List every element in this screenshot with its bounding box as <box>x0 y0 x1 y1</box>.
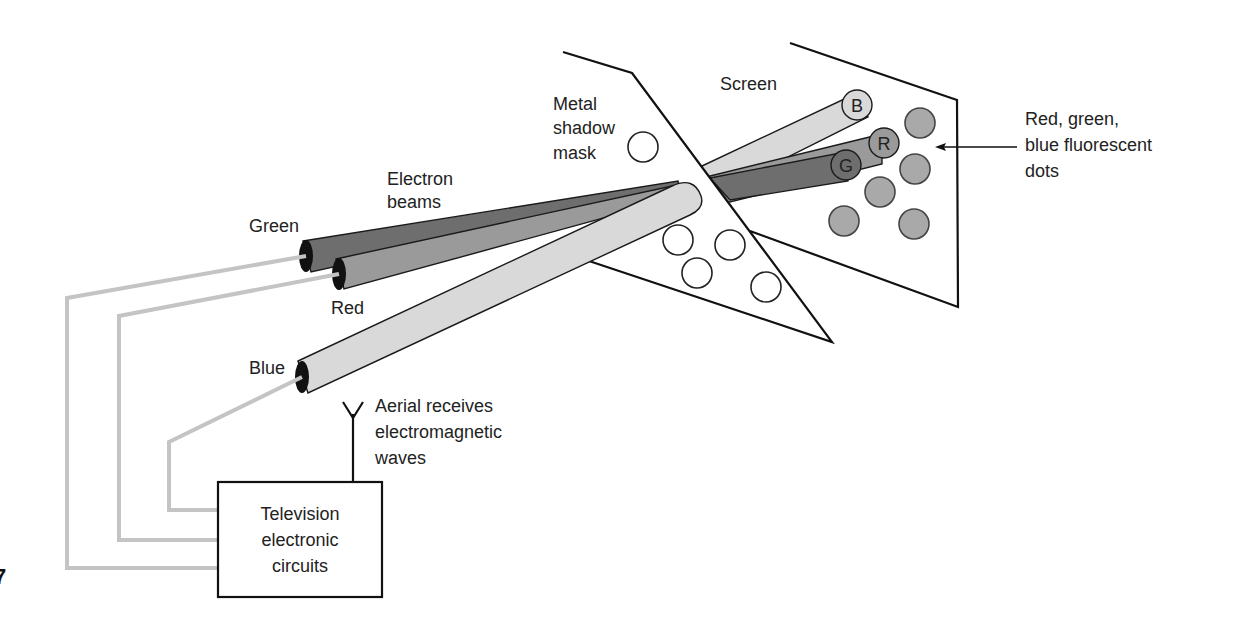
beams-before-mask <box>295 181 702 393</box>
label-aerial-2: electromagnetic <box>375 422 502 442</box>
beam-tip-letter: G <box>839 156 853 176</box>
phosphor-dot <box>829 206 859 236</box>
phosphor-dot <box>900 154 930 184</box>
dots-pointer <box>935 143 1017 151</box>
label-gun-red: Red <box>331 298 364 318</box>
mask-hole <box>663 225 693 255</box>
phosphor-dot <box>865 177 895 207</box>
label-gun-blue: Blue <box>249 358 285 378</box>
label-gun-green: Green <box>249 216 299 236</box>
mask-hole <box>715 230 745 260</box>
phosphor-dot <box>905 108 935 138</box>
mask-hole <box>628 132 658 162</box>
label-electron-beams-2: beams <box>387 192 441 212</box>
beam-tip-letter: B <box>851 96 863 116</box>
mask-hole <box>751 272 781 302</box>
mask-hole <box>682 258 712 288</box>
beam-tip-letter: R <box>878 134 891 154</box>
label-mask-3: mask <box>553 143 597 163</box>
label-circuits-3: circuits <box>272 556 328 576</box>
figure-number-fragment: 7 <box>0 564 6 589</box>
label-aerial-3: waves <box>374 448 426 468</box>
label-aerial-1: Aerial receives <box>375 396 493 416</box>
label-mask-2: shadow <box>553 118 616 138</box>
phosphor-dot <box>899 209 929 239</box>
crt-diagram: B R G <box>0 0 1236 630</box>
label-dots-3: dots <box>1025 161 1059 181</box>
label-mask-1: Metal <box>553 94 597 114</box>
label-dots-1: Red, green, <box>1025 109 1119 129</box>
label-circuits-1: Television <box>260 504 339 524</box>
label-electron-beams-1: Electron <box>387 169 453 189</box>
label-screen: Screen <box>720 74 777 94</box>
label-dots-2: blue fluorescent <box>1025 135 1152 155</box>
label-circuits-2: electronic <box>261 530 338 550</box>
